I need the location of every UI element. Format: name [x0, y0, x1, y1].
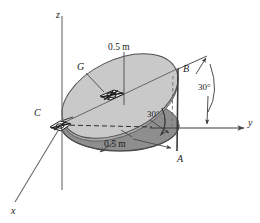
dimension-label-radius-bottom: 0.5 m [104, 140, 126, 150]
x-axis [15, 124, 62, 202]
point-label-B: B [183, 64, 189, 74]
angle-label-incline-outer: 30° [198, 83, 211, 92]
point-label-C: C [34, 108, 41, 118]
dimension-label-radius-top: 0.5 m [108, 43, 130, 53]
figure-canvas: z y x G C B A 0.5 m 0.5 m 30° 30° [0, 0, 260, 223]
angle-label-incline-inner: 30° [147, 110, 160, 119]
axis-label-x: x [11, 206, 15, 216]
axis-label-z: z [56, 10, 60, 20]
point-label-A: A [177, 154, 183, 164]
point-label-G: G [77, 62, 84, 72]
segment-B-to-A [177, 69, 178, 151]
axis-label-y: y [248, 118, 252, 128]
